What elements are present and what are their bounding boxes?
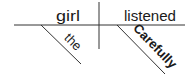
predicate-word: listened [124, 7, 176, 24]
subject-modifier-word: the [61, 30, 84, 53]
sentence-diagram: girl listened the Carefully [0, 0, 193, 79]
subject-word: girl [56, 7, 80, 24]
